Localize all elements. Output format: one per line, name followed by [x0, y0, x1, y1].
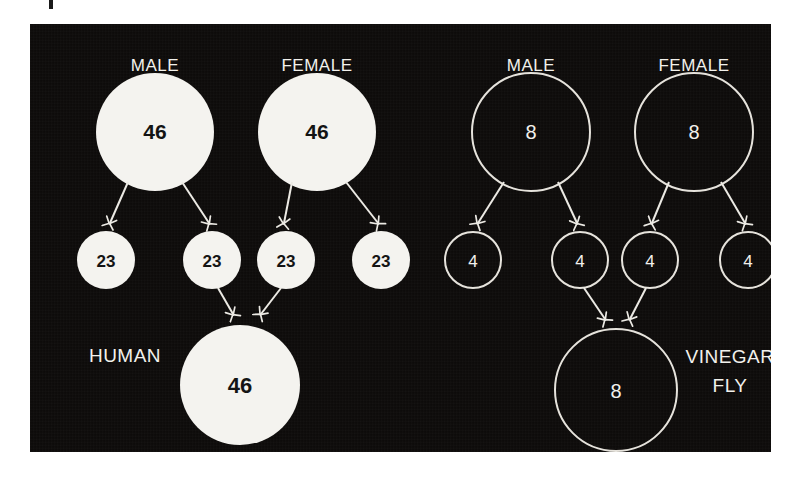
human-organism-label: HUMAN [89, 345, 161, 366]
human-arrow-female-to-gamete-3 [284, 182, 292, 223]
human-gamete-value-3: 23 [277, 252, 296, 271]
fly-arrow-gamete-3-to-zygote [630, 288, 646, 319]
fly-arrow-male-to-gamete-1 [478, 182, 504, 223]
human-arrow-female-to-gamete-4 [346, 182, 378, 223]
fly-arrow-female-to-gamete-4 [721, 182, 745, 223]
figure-root: MALE 46 FEMALE 46 23 23 23 [0, 0, 787, 478]
human-parent-male-value: 46 [143, 120, 166, 143]
human-parent-female-value: 46 [305, 120, 328, 143]
fly-organism-label-line-2: FLY [713, 375, 748, 396]
human-male-label: MALE [131, 56, 179, 75]
group-vinegar-fly: MALE 8 FEMALE 8 4 4 4 [445, 56, 771, 451]
chromosome-diagram: MALE 46 FEMALE 46 23 23 23 [30, 24, 771, 452]
human-female-label: FEMALE [281, 56, 352, 75]
fly-gamete-value-2: 4 [575, 252, 584, 271]
group-human: MALE 46 FEMALE 46 23 23 23 [77, 56, 410, 445]
human-zygote-value: 46 [228, 373, 252, 398]
human-arrow-gamete-2-to-zygote [218, 288, 233, 314]
scan-artifact-tick [49, 0, 53, 9]
fly-gamete-value-1: 4 [468, 252, 477, 271]
fly-arrow-female-to-gamete-3 [652, 182, 669, 223]
fly-gamete-value-3: 4 [645, 252, 654, 271]
fly-zygote-value: 8 [610, 380, 621, 402]
diagram-panel: MALE 46 FEMALE 46 23 23 23 [30, 24, 771, 452]
fly-organism-label-line-1: VINEGAR [685, 346, 771, 367]
fly-arrow-male-to-gamete-2 [558, 182, 577, 223]
human-arrow-male-to-gamete-2 [182, 182, 209, 223]
fly-arrow-gamete-2-to-zygote [584, 288, 605, 319]
human-gamete-value-1: 23 [97, 252, 116, 271]
fly-gamete-value-4: 4 [743, 252, 752, 271]
fly-parent-male-value: 8 [525, 121, 536, 143]
human-arrow-male-to-gamete-1 [110, 182, 128, 223]
human-arrow-gamete-3-to-zygote [261, 288, 281, 314]
human-gamete-value-4: 23 [372, 252, 391, 271]
fly-parent-female-value: 8 [688, 121, 699, 143]
human-gamete-value-2: 23 [203, 252, 222, 271]
